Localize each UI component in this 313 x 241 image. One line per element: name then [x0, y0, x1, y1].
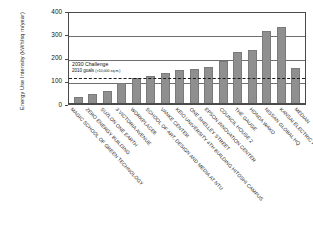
bar	[117, 83, 126, 104]
bar	[291, 68, 300, 104]
bar	[204, 67, 213, 104]
bar	[146, 76, 155, 104]
bar	[190, 69, 199, 104]
bar-slot	[173, 13, 188, 104]
bar-slot	[216, 13, 231, 104]
bar-slot	[187, 13, 202, 104]
bar	[219, 61, 228, 104]
y-tick-label-0: 0	[42, 102, 62, 108]
bar-slot	[231, 13, 246, 104]
x-axis-line	[69, 103, 305, 104]
annotation-line-2-main: 2010 goals	[72, 68, 94, 73]
x-axis-category-labels: MAGIC SCHOOL OF GREEN TECHNOLOGYZERO ENE…	[68, 106, 306, 226]
y-tick-label-300: 300	[42, 32, 62, 38]
bar-slot	[245, 13, 260, 104]
bar-slot	[202, 13, 217, 104]
bar-slot	[260, 13, 275, 104]
annotation-line-1: 2030 Challenge	[72, 61, 121, 68]
plot-area: 2030 Challenge 2010 goals (>10,000 sq.m.…	[68, 12, 306, 105]
y-tick-label-200: 200	[42, 55, 62, 61]
y-tick-label-100: 100	[42, 78, 62, 84]
bar-slot	[115, 13, 130, 104]
bar	[103, 91, 112, 104]
bar	[175, 70, 184, 104]
bar-slot	[144, 13, 159, 104]
bar-slot	[86, 13, 101, 104]
y-tick-label-400: 400	[42, 9, 62, 15]
bar	[277, 27, 286, 104]
bar-slot	[274, 13, 289, 104]
threshold-annotation: 2030 Challenge 2010 goals (>10,000 sq.m.…	[72, 61, 121, 74]
bar-slot	[129, 13, 144, 104]
bar-slot	[158, 13, 173, 104]
y-axis-title: Energy Use Intensity (kWh/sq m/year)	[19, 6, 25, 116]
bar	[248, 50, 257, 104]
bar	[132, 78, 141, 104]
annotation-line-2: 2010 goals (>10,000 sq.m.)	[72, 68, 121, 74]
energy-use-intensity-bar-chart: Energy Use Intensity (kWh/sq m/year) 010…	[0, 0, 313, 241]
bar-slot	[289, 13, 304, 104]
bar-slot	[100, 13, 115, 104]
threshold-dashed-line	[69, 78, 305, 79]
annotation-line-2-sub: (>10,000 sq.m.)	[95, 69, 120, 73]
bar-slot	[71, 13, 86, 104]
bar-series	[69, 13, 305, 104]
bar	[262, 31, 271, 104]
